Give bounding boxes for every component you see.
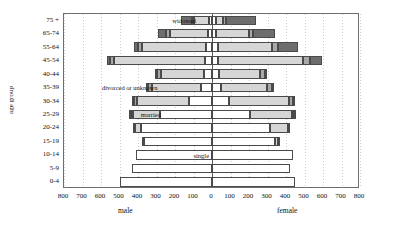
segment-single xyxy=(160,110,212,120)
segment-single xyxy=(144,137,212,147)
bar-female xyxy=(212,16,256,26)
x-axis-label-male: male xyxy=(118,206,133,215)
y-tick-75plus: 75 + xyxy=(15,16,59,24)
bar-male xyxy=(120,177,212,187)
bar-male xyxy=(158,29,212,39)
segment-widowed xyxy=(253,29,275,39)
pyramid-row xyxy=(64,108,358,121)
y-tick-10-14: 10-14 xyxy=(15,150,59,158)
pyramid-row xyxy=(64,135,358,148)
pyramid-row xyxy=(64,27,358,40)
segment-single xyxy=(212,177,295,187)
segment-married xyxy=(137,96,189,106)
x-tick-800: 800 xyxy=(344,192,374,200)
segment-married xyxy=(142,42,207,52)
pyramid-row xyxy=(64,14,358,27)
segment-single xyxy=(212,96,229,106)
segment-married xyxy=(270,123,288,133)
pyramid-row xyxy=(64,176,358,189)
bar-female xyxy=(212,110,296,120)
segment-married xyxy=(194,16,208,26)
bar-male xyxy=(142,137,212,147)
y-tick-5-9: 5-9 xyxy=(15,164,59,172)
segment-married xyxy=(152,83,201,93)
segment-single xyxy=(212,164,290,174)
population-pyramid-chart: age group 75 +65-7455-6445-5440-4435-393… xyxy=(0,0,395,229)
bar-female xyxy=(212,83,274,93)
bar-female xyxy=(212,96,295,106)
segment-married xyxy=(229,96,289,106)
y-tick-30-34: 30-34 xyxy=(15,97,59,105)
segment-divorced xyxy=(288,123,290,133)
bar-female xyxy=(212,123,290,133)
segment-single xyxy=(212,137,275,147)
y-tick-0-4: 0-4 xyxy=(15,177,59,185)
y-tick-45-54: 45-54 xyxy=(15,56,59,64)
segment-divorced xyxy=(303,56,310,66)
segment-single xyxy=(205,56,212,66)
segment-single xyxy=(189,96,212,106)
bar-male xyxy=(155,69,212,79)
segment-single xyxy=(204,69,212,79)
segment-widowed xyxy=(226,16,257,26)
bar-female xyxy=(212,177,295,187)
y-tick-20-24: 20-24 xyxy=(15,123,59,131)
pyramid-row xyxy=(64,162,358,175)
bar-female xyxy=(212,150,293,160)
segment-married xyxy=(250,110,292,120)
y-tick-40-44: 40-44 xyxy=(15,70,59,78)
segment-single xyxy=(212,110,250,120)
y-axis-title: age group xyxy=(7,70,15,130)
bar-female xyxy=(212,69,267,79)
segment-married xyxy=(216,16,223,26)
y-tick-55-64: 55-64 xyxy=(15,43,59,51)
annotation-divorced: divorced or unknown xyxy=(102,84,158,91)
bar-female xyxy=(212,42,298,52)
annotation-single: single xyxy=(194,152,210,159)
segment-widowed xyxy=(265,69,267,79)
segment-single xyxy=(132,164,212,174)
bar-male xyxy=(132,96,212,106)
pyramid-row xyxy=(64,95,358,108)
bar-female xyxy=(212,137,280,147)
segment-widowed xyxy=(272,83,274,93)
pyramid-row xyxy=(64,68,358,81)
segment-married xyxy=(221,83,267,93)
annotation-widowed: widowed xyxy=(172,17,196,24)
segment-married xyxy=(216,29,249,39)
x-axis-label-female: female xyxy=(277,206,297,215)
plot-area: widoweddivorced or unknownmarriedsingle xyxy=(63,13,359,188)
segment-single xyxy=(212,150,293,160)
segment-married xyxy=(218,56,303,66)
segment-widowed xyxy=(293,96,295,106)
segment-single xyxy=(120,177,212,187)
bar-male xyxy=(132,164,212,174)
bar-female xyxy=(212,164,290,174)
segment-married xyxy=(170,29,208,39)
pyramid-row xyxy=(64,122,358,135)
segment-widowed xyxy=(294,110,296,120)
segment-married xyxy=(114,56,205,66)
segment-single xyxy=(141,123,212,133)
segment-divorced xyxy=(278,137,280,147)
y-tick-65-74: 65-74 xyxy=(15,29,59,37)
segment-widowed xyxy=(310,56,321,66)
y-tick-15-19: 15-19 xyxy=(15,137,59,145)
bar-male xyxy=(107,56,212,66)
segment-married xyxy=(161,69,203,79)
segment-married xyxy=(219,69,260,79)
y-tick-35-39: 35-39 xyxy=(15,83,59,91)
segment-single xyxy=(212,69,219,79)
gridline xyxy=(360,14,361,187)
bar-female xyxy=(212,56,322,66)
segment-single xyxy=(201,83,212,93)
pyramid-row xyxy=(64,54,358,67)
y-tick-25-29: 25-29 xyxy=(15,110,59,118)
pyramid-row xyxy=(64,149,358,162)
segment-single xyxy=(212,83,221,93)
segment-widowed xyxy=(278,42,298,52)
segment-married xyxy=(218,42,273,52)
annotation-married: married xyxy=(141,111,161,118)
segment-single xyxy=(212,123,270,133)
segment-widowed xyxy=(158,29,166,39)
